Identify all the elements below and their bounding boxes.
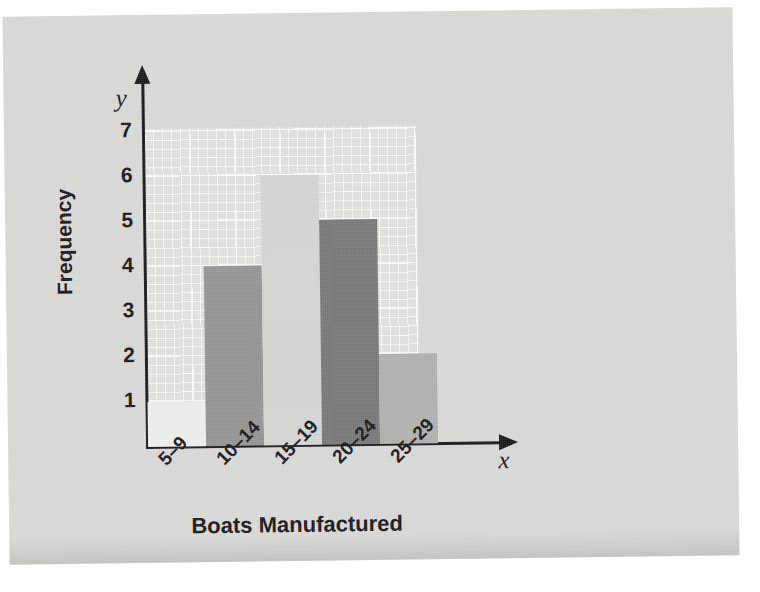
paper-sheet: y x 7654321 5–910–1415–1920–2425–29 Freq…	[2, 7, 739, 565]
bar	[261, 175, 323, 446]
y-tick-label: 6	[42, 163, 142, 188]
y-tick-label: 3	[44, 298, 144, 323]
bar	[204, 265, 264, 446]
bar	[319, 219, 380, 445]
y-tick-label: 1	[45, 388, 145, 413]
y-tick-label: 2	[45, 343, 145, 368]
scanned-page-canvas: y x 7654321 5–910–1415–1920–2425–29 Freq…	[0, 0, 760, 592]
x-axis-symbol: x	[498, 446, 509, 474]
y-axis-title: Frequency	[52, 189, 77, 296]
x-axis-tick-labels: 5–910–1415–1920–2425–29	[148, 445, 449, 519]
x-axis-title: Boats Manufactured	[147, 510, 447, 540]
histogram-chart: y x 7654321 5–910–1415–1920–2425–29 Freq…	[31, 24, 558, 551]
bar-series	[143, 85, 438, 447]
y-tick-label: 7	[42, 118, 142, 143]
y-axis-tick-labels: 7654321	[31, 29, 147, 490]
